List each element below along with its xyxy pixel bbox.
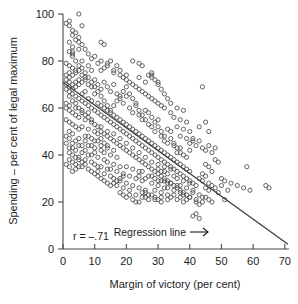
scatter-point: [118, 165, 122, 169]
scatter-point: [77, 115, 81, 119]
scatter-point: [131, 97, 135, 101]
scatter-point: [102, 151, 106, 155]
scatter-point: [159, 191, 163, 195]
scatter-point: [156, 167, 160, 171]
scatter-point: [112, 162, 116, 166]
scatter-point: [96, 132, 100, 136]
scatter-point: [213, 186, 217, 190]
regression-line-label: Regression line: [114, 226, 187, 238]
scatter-point: [131, 59, 135, 63]
scatter-point: [137, 75, 141, 79]
scatter-point: [124, 85, 128, 89]
scatter-point: [188, 148, 192, 152]
scatter-point: [83, 118, 87, 122]
scatter-point: [105, 129, 109, 133]
scatter-point: [178, 118, 182, 122]
scatter-point: [146, 94, 150, 98]
scatter-point: [115, 169, 119, 173]
scatter-point: [153, 99, 157, 103]
scatter-point: [64, 162, 68, 166]
scatter-point: [89, 57, 93, 61]
scatter-point: [121, 193, 125, 197]
scatter-point: [150, 115, 154, 119]
scatter-point: [172, 193, 176, 197]
scatter-point: [112, 132, 116, 136]
scatter-point: [194, 212, 198, 216]
x-tick-label: 30: [152, 255, 164, 267]
y-tick-label: 0: [48, 243, 54, 255]
scatter-point: [74, 38, 78, 42]
scatter-point: [184, 120, 188, 124]
scatter-point: [210, 200, 214, 204]
scatter-point: [159, 104, 163, 108]
scatter-point: [80, 125, 84, 129]
scatter-point: [89, 160, 93, 164]
scatter-point: [172, 115, 176, 119]
scatter-point-group: [64, 12, 271, 221]
scatter-point: [137, 151, 141, 155]
scatter-point: [153, 188, 157, 192]
scatter-point: [197, 125, 201, 129]
scatter-point: [70, 169, 74, 173]
scatter-point: [175, 125, 179, 129]
scatter-point: [184, 186, 188, 190]
scatter-point: [83, 89, 87, 93]
scatter-point: [105, 104, 109, 108]
scatter-point: [207, 181, 211, 185]
scatter-point: [64, 73, 68, 77]
y-tick-label: 80: [42, 55, 54, 67]
scatter-point: [178, 134, 182, 138]
scatter-point: [83, 148, 87, 152]
scatter-point: [131, 167, 135, 171]
scatter-point: [216, 160, 220, 164]
scatter-point: [70, 132, 74, 136]
scatter-point: [219, 183, 223, 187]
scatter-point: [86, 64, 90, 68]
y-axis-ticks: 020406080100: [36, 8, 63, 255]
scatter-point: [115, 99, 119, 103]
scatter-point: [169, 111, 173, 115]
scatter-point: [204, 148, 208, 152]
y-tick-label: 20: [42, 196, 54, 208]
scatter-point: [127, 188, 131, 192]
scatter-point: [165, 97, 169, 101]
scatter-point: [70, 33, 74, 37]
y-axis-title: Spending – per cent of legal maximum: [7, 37, 19, 225]
scatter-point: [121, 89, 125, 93]
scatter-point: [86, 127, 90, 131]
scatter-point: [127, 106, 131, 110]
scatter-point: [67, 19, 71, 23]
scatter-point: [194, 144, 198, 148]
scatter-point: [74, 101, 78, 105]
annotations-group: r = –.71 Regression line: [73, 226, 208, 242]
scatter-point: [83, 139, 87, 143]
scatter-point: [197, 139, 201, 143]
scatter-point: [70, 141, 74, 145]
scatter-point: [134, 85, 138, 89]
scatter-point: [146, 111, 150, 115]
x-axis-ticks: 010203040506070: [60, 244, 291, 267]
scatter-point: [207, 144, 211, 148]
scatter-point: [108, 89, 112, 93]
y-tick-label: 40: [42, 149, 54, 161]
scatter-point: [115, 64, 119, 68]
scatter-point: [67, 104, 71, 108]
x-tick-label: 10: [89, 255, 101, 267]
scatter-point: [96, 155, 100, 159]
y-tick-label: 60: [42, 102, 54, 114]
scatter-point: [175, 176, 179, 180]
scatter-point: [242, 186, 246, 190]
scatter-point: [169, 136, 173, 140]
scatter-point: [105, 160, 109, 164]
scatter-point: [143, 155, 147, 159]
x-tick-label: 20: [120, 255, 132, 267]
x-tick-label: 60: [247, 255, 259, 267]
scatter-point: [207, 129, 211, 133]
scatter-plot-figure: 010203040506070 020406080100 r = –.71 Re…: [0, 0, 298, 304]
scatter-point: [137, 108, 141, 112]
scatter-point: [102, 66, 106, 70]
scatter-point: [77, 47, 81, 51]
scatter-point: [245, 165, 249, 169]
scatter-point: [124, 141, 128, 145]
scatter-point: [108, 59, 112, 63]
